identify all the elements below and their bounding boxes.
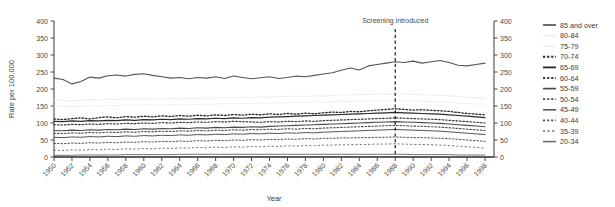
x-tick-label: 1954 bbox=[77, 162, 93, 178]
series-line-70-74 bbox=[54, 109, 485, 120]
y-tick-label-right: 200 bbox=[500, 86, 512, 93]
y-tick-label-right: 400 bbox=[500, 18, 512, 25]
legend-item[interactable]: 60-64 bbox=[543, 74, 578, 83]
legend-item[interactable]: 50-54 bbox=[543, 95, 578, 104]
legend-item[interactable]: 80-84 bbox=[543, 31, 578, 40]
series-line-40-44 bbox=[54, 137, 485, 144]
x-tick-label: 1976 bbox=[275, 162, 291, 178]
legend-label: 85 and over bbox=[560, 21, 599, 30]
legend-item[interactable]: 35-39 bbox=[543, 127, 578, 136]
x-tick-label: 1960 bbox=[131, 162, 147, 178]
legend-label: 50-54 bbox=[560, 95, 578, 104]
y-tick-label-left: 400 bbox=[36, 18, 48, 25]
x-tick-label: 1962 bbox=[149, 162, 165, 178]
x-tick-label: 1958 bbox=[113, 162, 129, 178]
x-tick-label: 1994 bbox=[436, 162, 452, 178]
x-tick-label: 1978 bbox=[293, 162, 309, 178]
series-line-55-59 bbox=[54, 122, 485, 131]
y-tick-label-right: 350 bbox=[500, 35, 512, 42]
y-tick-label-left: 50 bbox=[40, 137, 48, 144]
x-tick-label: 1964 bbox=[167, 162, 183, 178]
x-tick-label: 1988 bbox=[382, 162, 398, 178]
series-line-45-49 bbox=[54, 129, 485, 137]
x-tick-label: 1998 bbox=[472, 162, 488, 178]
x-tick-label: 1980 bbox=[311, 162, 327, 178]
legend-item[interactable]: 65-69 bbox=[543, 63, 578, 72]
legend-item[interactable]: 85 and over bbox=[543, 21, 599, 30]
legend-label: 70-74 bbox=[560, 52, 578, 61]
x-tick-label: 1992 bbox=[418, 162, 434, 178]
y-tick-label-left: 200 bbox=[36, 86, 48, 93]
series-line-35-39 bbox=[54, 144, 485, 151]
legend-item[interactable]: 70-74 bbox=[543, 52, 578, 61]
series-line-75-79 bbox=[54, 100, 485, 106]
y-tick-label-left: 150 bbox=[36, 103, 48, 110]
legend-label: 55-59 bbox=[560, 84, 578, 93]
y-tick-label-right: 0 bbox=[500, 154, 504, 161]
legend-label: 35-39 bbox=[560, 127, 578, 136]
x-tick-label: 1952 bbox=[59, 162, 75, 178]
legend-item[interactable]: 45-49 bbox=[543, 105, 578, 114]
x-tick-label: 1986 bbox=[365, 162, 381, 178]
legend-label: 65-69 bbox=[560, 63, 578, 72]
series-line-20-34 bbox=[54, 154, 485, 155]
x-tick-label: 1966 bbox=[185, 162, 201, 178]
y-tick-label-left: 300 bbox=[36, 52, 48, 59]
y-tick-label-right: 50 bbox=[500, 137, 508, 144]
x-axis-title: Year bbox=[266, 194, 282, 203]
x-tick-label: 1990 bbox=[400, 162, 416, 178]
legend-item[interactable]: 40-44 bbox=[543, 116, 578, 125]
y-tick-label-right: 150 bbox=[500, 103, 512, 110]
x-tick-label: 1974 bbox=[257, 162, 273, 178]
legend-label: 60-64 bbox=[560, 74, 578, 83]
y-tick-label-left: 100 bbox=[36, 120, 48, 127]
x-tick-label: 1972 bbox=[239, 162, 255, 178]
legend-label: 45-49 bbox=[560, 105, 578, 114]
legend-label: 80-84 bbox=[560, 31, 578, 40]
legend-item[interactable]: 20-34 bbox=[543, 137, 578, 146]
x-tick-label: 1984 bbox=[347, 162, 363, 178]
x-tick-label: 1996 bbox=[454, 162, 470, 178]
line-chart: 0050501001001501502002002502503003003503… bbox=[0, 0, 615, 207]
series-line-80-84 bbox=[54, 94, 485, 101]
screening-introduced-label: Screening introduced bbox=[362, 17, 428, 25]
y-tick-label-left: 0 bbox=[44, 154, 48, 161]
series-line-60-64 bbox=[54, 118, 485, 125]
y-tick-label-right: 300 bbox=[500, 52, 512, 59]
y-axis-title: Rate per 100,000 bbox=[7, 60, 16, 118]
legend-label: 75-79 bbox=[560, 42, 578, 51]
y-tick-label-right: 250 bbox=[500, 69, 512, 76]
x-tick-label: 1956 bbox=[95, 162, 111, 178]
legend-label: 40-44 bbox=[560, 116, 578, 125]
legend-item[interactable]: 75-79 bbox=[543, 42, 578, 51]
x-tick-label: 1970 bbox=[221, 162, 237, 178]
y-tick-label-right: 100 bbox=[500, 120, 512, 127]
series-line-85-and-over bbox=[54, 60, 485, 83]
legend-label: 20-34 bbox=[560, 137, 578, 146]
x-tick-label: 1950 bbox=[41, 162, 57, 178]
x-tick-label: 1982 bbox=[329, 162, 345, 178]
legend-item[interactable]: 55-59 bbox=[543, 84, 578, 93]
x-tick-label: 1968 bbox=[203, 162, 219, 178]
chart-container: 0050501001001501502002002502503003003503… bbox=[0, 0, 615, 207]
y-tick-label-left: 250 bbox=[36, 69, 48, 76]
y-tick-label-left: 350 bbox=[36, 35, 48, 42]
